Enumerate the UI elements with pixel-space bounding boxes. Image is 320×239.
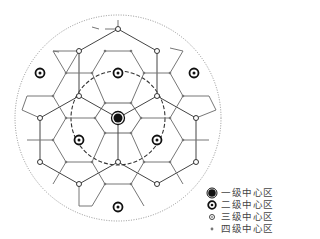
level-2-center-nodes xyxy=(36,69,199,212)
legend-label: 一级中心区 xyxy=(221,187,274,199)
legend-item-level-1: 一级中心区 xyxy=(205,187,274,199)
level-2-marker-icon xyxy=(205,199,219,211)
level-1-center-node xyxy=(112,112,125,125)
legend-label: 四级中心区 xyxy=(221,223,274,235)
legend-label: 二级中心区 xyxy=(221,199,274,211)
legend-item-level-3: 三级中心区 xyxy=(205,211,274,223)
level-1-marker-icon xyxy=(205,187,219,199)
legend-item-level-2: 二级中心区 xyxy=(205,199,274,211)
legend: 一级中心区 二级中心区 三级中心区 四级中心区 xyxy=(205,187,274,235)
level-4-marker-icon xyxy=(205,223,219,235)
level-3-marker-icon xyxy=(205,211,219,223)
legend-label: 三级中心区 xyxy=(221,211,274,223)
legend-item-level-4: 四级中心区 xyxy=(205,223,274,235)
